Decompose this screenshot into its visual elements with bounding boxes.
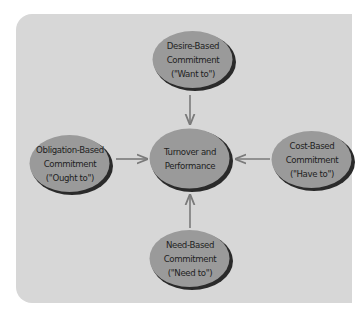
node-need-line-3: ("Need to") bbox=[168, 266, 213, 280]
node-obligation-based: Obligation-Based Commitment ("Ought to") bbox=[27, 141, 113, 187]
node-center-line-2: Performance bbox=[165, 159, 216, 173]
node-obligation-line-2: Commitment bbox=[44, 157, 97, 171]
node-need-line-1: Need-Based bbox=[166, 238, 214, 252]
node-need-line-2: Commitment bbox=[164, 252, 217, 266]
node-obligation-line-1: Obligation-Based bbox=[36, 143, 104, 157]
node-center-line-1: Turnover and bbox=[164, 145, 216, 159]
node-cost-based: Cost-Based Commitment ("Have to") bbox=[271, 137, 353, 183]
node-turnover-performance: Turnover and Performance bbox=[150, 143, 230, 175]
node-desire-line-2: Commitment bbox=[167, 53, 220, 67]
node-cost-line-2: Commitment bbox=[286, 153, 339, 167]
node-desire-based: Desire-Based Commitment ("Want to") bbox=[152, 37, 234, 83]
node-cost-line-3: ("Have to") bbox=[290, 167, 334, 181]
node-desire-line-3: ("Want to") bbox=[171, 67, 215, 81]
node-need-based: Need-Based Commitment ("Need to") bbox=[149, 236, 231, 282]
node-cost-line-1: Cost-Based bbox=[290, 139, 335, 153]
node-desire-line-1: Desire-Based bbox=[167, 39, 219, 53]
node-obligation-line-3: ("Ought to") bbox=[46, 171, 94, 185]
